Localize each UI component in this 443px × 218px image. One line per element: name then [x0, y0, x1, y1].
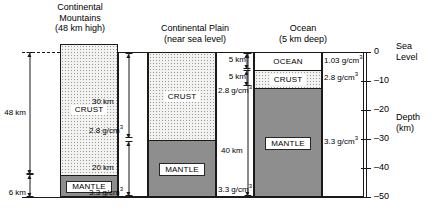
- dimension-label-20km-a: 20 km: [92, 163, 114, 172]
- isostasy-diagram: Continental Mountains (48 km high) Conti…: [0, 0, 443, 218]
- dimension-label-6km: 6 km: [2, 188, 26, 197]
- axis-tick-30: [361, 139, 371, 140]
- header-line: Mountains: [20, 13, 140, 24]
- header-line: (5 km deep): [248, 34, 358, 45]
- density-label-3p3-c: 3.3 g/cm3: [324, 137, 358, 146]
- density-label-3p3-a: 3.3 g/cm3: [89, 188, 123, 197]
- density-exponent: 3: [120, 124, 123, 130]
- measure-text: 30 km: [92, 97, 114, 106]
- sea-level-caption: Sea Level: [396, 41, 418, 62]
- density-label-1p03-c: 1.03 g/cm3: [324, 56, 362, 65]
- depth-axis-title-line-2: (km): [396, 123, 420, 134]
- dimension-label-40km-b: 40 km: [221, 146, 243, 155]
- density-exponent: 3: [120, 186, 123, 192]
- layer-mantle-plain: MANTLE: [149, 140, 215, 197]
- dimension-label-48km: 48 km: [2, 108, 26, 117]
- axis-tick-label-10: –10: [374, 76, 389, 85]
- header-line: Continental: [20, 2, 140, 13]
- layer-crust-plain: CRUST: [149, 53, 215, 140]
- column-continental-plain: CRUST MANTLE: [148, 52, 216, 197]
- header-line: Ocean: [248, 23, 358, 34]
- layer-label-crust: CRUST: [164, 91, 201, 102]
- density-label-2p8-c: 2.8 g/cm3: [324, 73, 358, 82]
- header-line: (48 km high): [20, 23, 140, 34]
- density-label-2p8-a: 2.8 g/cm3: [89, 126, 123, 135]
- layer-mantle-ocean: MANTLE: [255, 88, 321, 197]
- sea-level-caption-line-2: Level: [396, 52, 418, 63]
- depth-axis-title: Depth (km): [396, 112, 420, 133]
- density-value: 2.8 g/cm: [218, 86, 249, 95]
- axis-tick-50: [361, 197, 371, 198]
- dimension-label-5km-crust: 5 km: [222, 72, 246, 81]
- header-continental-mountains: Continental Mountains (48 km high): [20, 2, 140, 34]
- axis-tick-label-40: –40: [374, 163, 389, 172]
- depth-axis-line: [366, 52, 367, 197]
- density-exponent: 3: [355, 71, 358, 77]
- density-exponent: 3: [355, 135, 358, 141]
- axis-tick-20: [361, 110, 371, 111]
- layer-label-crust: CRUST: [71, 105, 108, 116]
- density-exponent: 3: [249, 183, 252, 189]
- layer-label-crust: CRUST: [270, 74, 307, 85]
- dimension-label-30km-a: 30 km: [92, 97, 114, 106]
- layer-label-ocean: OCEAN: [269, 56, 306, 67]
- density-value: 3.3 g/cm: [89, 188, 120, 197]
- layer-label-mantle: MANTLE: [159, 163, 205, 176]
- sea-level-caption-line-1: Sea: [396, 41, 418, 52]
- measure-text: 20 km: [92, 163, 114, 172]
- layer-crust-ocean: CRUST: [255, 70, 321, 88]
- axis-tick-label-50: –50: [374, 192, 389, 201]
- header-line: (near sea level): [130, 34, 260, 45]
- axis-tick-40: [361, 168, 371, 169]
- density-value: 3.3 g/cm: [218, 185, 249, 194]
- density-value: 2.8 g/cm: [89, 126, 120, 135]
- layer-crust-mountains: CRUST: [61, 45, 117, 175]
- header-continental-plain: Continental Plain (near sea level): [130, 23, 260, 44]
- density-value: 3.3 g/cm: [324, 137, 355, 146]
- diagram-baseline: [22, 197, 368, 198]
- axis-tick-label-30: –30: [374, 134, 389, 143]
- density-value: 2.8 g/cm: [324, 73, 355, 82]
- column-continental-mountains: CRUST MANTLE: [60, 44, 118, 197]
- measure-text: 40 km: [221, 146, 243, 155]
- layer-label-mantle: MANTLE: [265, 137, 311, 150]
- layer-ocean-water: OCEAN: [255, 53, 321, 70]
- depth-axis-title-line-1: Depth: [396, 112, 420, 123]
- dimension-label-5km-ocean: 5 km: [222, 55, 246, 64]
- axis-tick-0: [361, 52, 371, 53]
- density-value: 1.03 g/cm: [324, 56, 359, 65]
- column-ocean: OCEAN CRUST MANTLE: [254, 52, 322, 197]
- axis-tick-label-0: 0: [374, 47, 379, 56]
- header-ocean: Ocean (5 km deep): [248, 23, 358, 44]
- axis-tick-label-20: –20: [374, 105, 389, 114]
- axis-tick-10: [361, 81, 371, 82]
- header-line: Continental Plain: [130, 23, 260, 34]
- density-exponent: 3: [359, 54, 362, 60]
